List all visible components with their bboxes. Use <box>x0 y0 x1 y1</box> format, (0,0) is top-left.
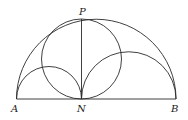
label-b: B <box>170 103 178 114</box>
right-semicircle <box>82 52 177 99</box>
label-a: A <box>10 103 18 114</box>
label-n: N <box>76 103 87 114</box>
label-p: P <box>78 6 86 17</box>
arbelos-diagram: P A N B <box>0 0 188 120</box>
large-semicircle <box>17 19 177 99</box>
